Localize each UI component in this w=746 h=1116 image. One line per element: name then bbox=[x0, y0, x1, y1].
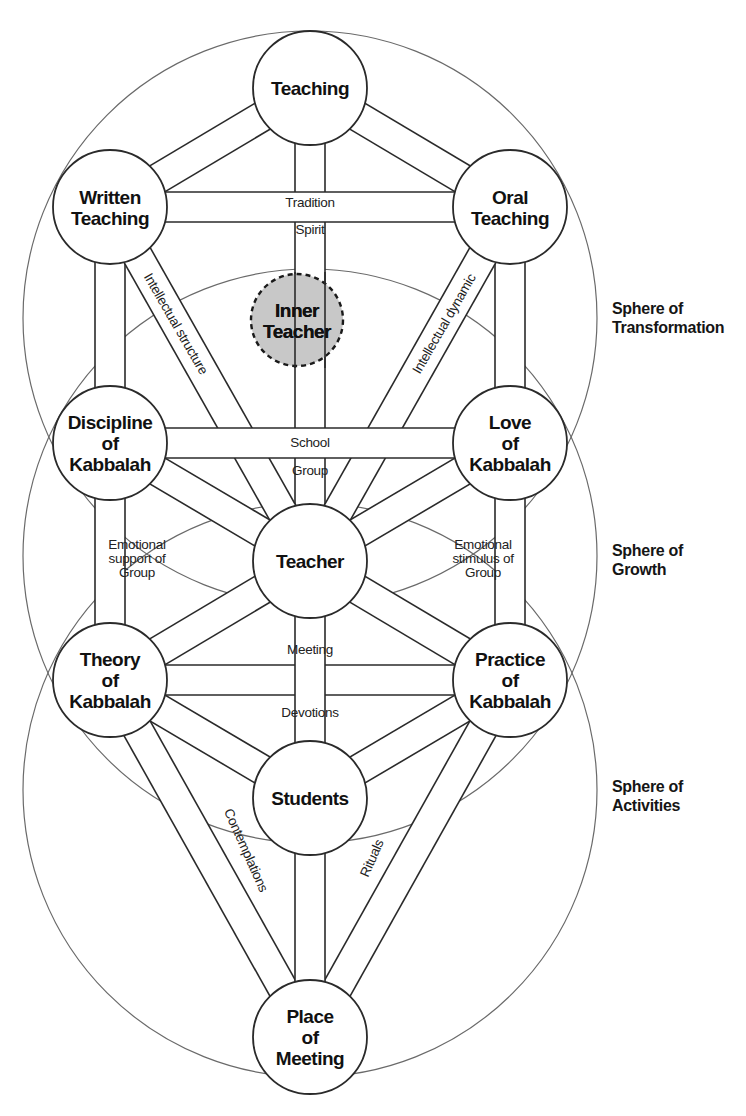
label-line: stimulus of bbox=[452, 551, 514, 566]
node-practice-of-kabbalah: PracticeofKabbalah bbox=[453, 623, 567, 737]
node-label-line: Oral bbox=[492, 187, 528, 208]
sphere-label-growth: Sphere ofGrowth bbox=[612, 542, 684, 578]
path-label-intellectual-structure: Intellectual structure bbox=[141, 271, 211, 377]
node-teacher: Teacher bbox=[253, 504, 367, 618]
node-label-line: Meeting bbox=[276, 1048, 344, 1069]
sphere-label-line: Growth bbox=[612, 561, 666, 578]
node-label-line: Place bbox=[286, 1006, 333, 1027]
node-label-line: Kabbalah bbox=[469, 691, 551, 712]
path-label-tradition: Tradition bbox=[285, 195, 334, 210]
label-line: Emotional bbox=[454, 537, 512, 552]
node-label-line: of bbox=[502, 670, 520, 691]
node-label: Teaching bbox=[271, 78, 349, 99]
label-line: Emotional bbox=[108, 537, 166, 552]
path-label-group: Group bbox=[292, 463, 328, 478]
sphere-label-line: Sphere of bbox=[612, 542, 684, 559]
node-teaching: Teaching bbox=[253, 31, 367, 145]
node-theory-of-kabbalah: TheoryofKabbalah bbox=[53, 623, 167, 737]
node-written-teaching: WrittenTeaching bbox=[53, 150, 167, 264]
sphere-label-line: Activities bbox=[612, 797, 681, 814]
node-label-line: Kabbalah bbox=[69, 454, 151, 475]
node-label-line: Teacher bbox=[276, 551, 345, 572]
sphere-label-line: Sphere of bbox=[612, 778, 684, 795]
path-label-school: School bbox=[290, 435, 330, 450]
node-label-line: Practice bbox=[475, 649, 545, 670]
sphere-label-line: Transformation bbox=[612, 319, 724, 336]
kabbalah-tree-diagram: TraditionSpiritIntellectual structureInt… bbox=[0, 0, 746, 1116]
node-students: Students bbox=[253, 741, 367, 855]
sphere-label-transformation: Sphere ofTransformation bbox=[612, 300, 724, 336]
path-label-meeting: Meeting bbox=[287, 642, 333, 657]
path-label-rituals: Rituals bbox=[357, 837, 387, 879]
cropped-caption bbox=[170, 1098, 570, 1112]
node-label-line: Students bbox=[271, 788, 348, 809]
node-label-line: Kabbalah bbox=[469, 454, 551, 475]
node-label-line: Discipline bbox=[68, 412, 153, 433]
node-label-line: Kabbalah bbox=[69, 691, 151, 712]
node-label-line: Written bbox=[79, 187, 141, 208]
label-line: Group bbox=[465, 565, 501, 580]
node-label: Students bbox=[271, 788, 348, 809]
node-label-line: Teaching bbox=[71, 208, 149, 229]
node-label: Teacher bbox=[276, 551, 345, 572]
path-label-devotions: Devotions bbox=[281, 705, 339, 720]
sphere-label-activities: Sphere ofActivities bbox=[612, 778, 684, 814]
node-label-line: Teaching bbox=[271, 78, 349, 99]
path-label-intellectual-dynamic: Intellectual dynamic bbox=[409, 271, 479, 376]
node-label-line: of bbox=[502, 433, 520, 454]
node-label-line: of bbox=[102, 670, 120, 691]
node-label: WrittenTeaching bbox=[71, 187, 149, 229]
node-label-line: Inner bbox=[275, 300, 320, 321]
label-line: Group bbox=[119, 565, 155, 580]
node-love-of-kabbalah: LoveofKabbalah bbox=[453, 386, 567, 500]
node-label-line: Theory bbox=[80, 649, 141, 670]
node-place-of-meeting: PlaceofMeeting bbox=[253, 980, 367, 1094]
node-label-line: of bbox=[102, 433, 120, 454]
node-label-line: of bbox=[302, 1027, 320, 1048]
node-oral-teaching: OralTeaching bbox=[453, 150, 567, 264]
path-label-spirit: Spirit bbox=[296, 222, 326, 237]
sphere-labels-layer: Sphere ofTransformationSphere ofGrowthSp… bbox=[612, 300, 724, 814]
sphere-label-line: Sphere of bbox=[612, 300, 684, 317]
node-discipline-of-kabbalah: DisciplineofKabbalah bbox=[53, 386, 167, 500]
node-label-line: Teaching bbox=[471, 208, 549, 229]
label-line: support of bbox=[108, 551, 166, 566]
node-label-line: Teacher bbox=[263, 321, 332, 342]
node-label-line: Love bbox=[489, 412, 531, 433]
